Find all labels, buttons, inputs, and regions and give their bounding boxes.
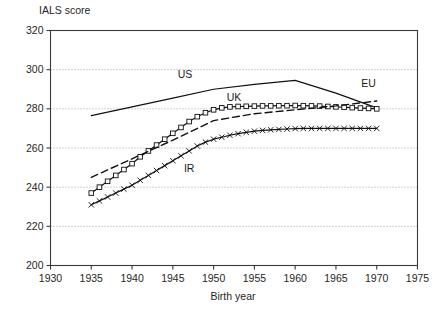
marker-square-uk [277, 103, 282, 108]
y-tick-label-260: 260 [26, 142, 44, 154]
marker-square-uk [293, 103, 298, 108]
marker-square-uk [358, 106, 363, 111]
marker-square-uk [366, 106, 371, 111]
marker-square-uk [268, 104, 273, 109]
marker-square-uk [138, 155, 143, 160]
x-tick-label-1945: 1945 [161, 272, 185, 284]
x-axis-title: Birth year [211, 290, 256, 302]
marker-square-uk [130, 161, 135, 166]
x-tick-label-1950: 1950 [202, 272, 226, 284]
x-tick-label-1935: 1935 [80, 272, 104, 284]
y-tick-label-320: 320 [26, 24, 44, 36]
y-tick-label-200: 200 [26, 259, 44, 271]
marker-square-uk [162, 137, 167, 142]
y-tick-label-280: 280 [26, 102, 44, 114]
marker-square-uk [285, 103, 290, 108]
y-tick-label-220: 220 [26, 220, 44, 232]
marker-square-uk [195, 114, 200, 119]
marker-square-uk [89, 191, 94, 196]
marker-square-uk [244, 104, 249, 109]
series-label-us: US [178, 68, 193, 80]
marker-square-uk [187, 119, 192, 124]
y-tick-label-300: 300 [26, 63, 44, 75]
series-label-ir: IR [184, 162, 195, 174]
marker-square-uk [260, 104, 265, 109]
x-tick-label-1960: 1960 [283, 272, 307, 284]
marker-square-uk [228, 105, 233, 110]
ials-score-line-chart: 2002202402602803003201930193519401945195… [0, 0, 440, 316]
y-tick-label-240: 240 [26, 181, 44, 193]
marker-square-uk [350, 105, 355, 110]
marker-square-uk [203, 110, 208, 115]
y-axis-title: IALS score [39, 4, 91, 16]
marker-square-uk [179, 125, 184, 130]
chart-figure: 2002202402602803003201930193519401945195… [0, 0, 440, 316]
marker-square-uk [301, 103, 306, 108]
x-tick-label-1975: 1975 [406, 272, 430, 284]
series-label-uk: UK [227, 91, 242, 103]
marker-square-uk [171, 131, 176, 136]
series-label-eu: EU [361, 77, 376, 89]
marker-square-uk [105, 179, 110, 184]
chart-background [0, 0, 440, 316]
marker-square-uk [219, 106, 224, 111]
marker-square-uk [122, 167, 127, 172]
x-tick-label-1940: 1940 [120, 272, 144, 284]
marker-square-uk [113, 173, 118, 178]
marker-square-uk [236, 104, 241, 109]
marker-square-uk [252, 104, 257, 109]
marker-square-uk [97, 185, 102, 190]
x-tick-label-1930: 1930 [39, 272, 63, 284]
x-tick-label-1970: 1970 [365, 272, 389, 284]
marker-square-uk [374, 107, 379, 112]
marker-square-uk [211, 108, 216, 113]
x-tick-label-1965: 1965 [324, 272, 348, 284]
x-tick-label-1955: 1955 [243, 272, 267, 284]
